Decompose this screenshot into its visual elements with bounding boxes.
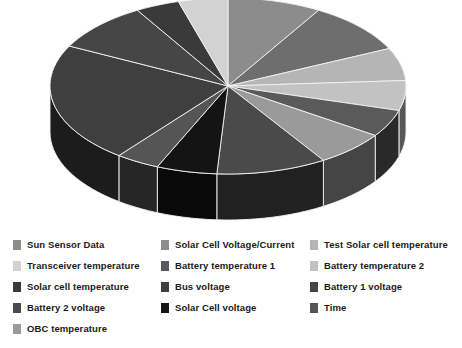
legend-column-1: Sun Sensor DataTransceiver temperatureSo… [13, 234, 153, 339]
legend-column-2: Solar Cell Voltage/CurrentBattery temper… [161, 234, 301, 318]
legend-item[interactable]: Battery temperature 2 [310, 255, 460, 276]
legend-item[interactable]: OBC temperature [13, 318, 153, 339]
legend-item[interactable]: Solar Cell Voltage/Current [161, 234, 301, 255]
legend-item-label: Solar Cell voltage [175, 302, 256, 313]
legend-item-label: Battery 1 voltage [324, 281, 402, 292]
chart-area: Sun Sensor DataSolar Cell Voltage/Curren… [0, 0, 462, 232]
legend-color-swatch [161, 240, 169, 250]
pie-top-surface: Sun Sensor DataSolar Cell Voltage/Curren… [50, 0, 406, 174]
legend-item-label: Solar Cell Voltage/Current [175, 239, 295, 250]
legend-item-label: Bus voltage [175, 281, 230, 292]
legend-item-label: Solar cell temperature [27, 281, 129, 292]
legend-color-swatch [161, 261, 169, 271]
legend-item-label: OBC temperature [27, 323, 107, 334]
legend-item-label: Test Solar cell temperature [324, 239, 448, 250]
legend-color-swatch [13, 282, 21, 292]
legend-item[interactable]: Solar Cell voltage [161, 297, 301, 318]
legend-item[interactable]: Time [310, 297, 460, 318]
legend-item[interactable]: Transceiver temperature [13, 255, 153, 276]
legend-item[interactable]: Sun Sensor Data [13, 234, 153, 255]
legend-item[interactable]: Battery 2 voltage [13, 297, 153, 318]
chart-legend: Sun Sensor DataTransceiver temperatureSo… [0, 234, 462, 348]
legend-item[interactable]: Battery 1 voltage [310, 276, 460, 297]
legend-item[interactable]: Battery temperature 1 [161, 255, 301, 276]
legend-item-label: Time [324, 302, 346, 313]
legend-column-3: Test Solar cell temperatureBattery tempe… [310, 234, 460, 318]
legend-color-swatch [13, 324, 21, 334]
legend-item[interactable]: Test Solar cell temperature [310, 234, 460, 255]
legend-color-swatch [310, 240, 318, 250]
legend-color-swatch [13, 303, 21, 313]
legend-item-label: Battery temperature 2 [324, 260, 424, 271]
legend-color-swatch [310, 282, 318, 292]
legend-color-swatch [310, 303, 318, 313]
legend-item-label: Sun Sensor Data [27, 239, 104, 250]
legend-item-label: Battery 2 voltage [27, 302, 105, 313]
pie-chart-3d: Sun Sensor DataSolar Cell Voltage/Curren… [0, 0, 462, 232]
legend-item[interactable]: Bus voltage [161, 276, 301, 297]
legend-item[interactable]: Solar cell temperature [13, 276, 153, 297]
legend-item-label: Transceiver temperature [27, 260, 140, 271]
legend-color-swatch [161, 282, 169, 292]
legend-color-swatch [161, 303, 169, 313]
legend-color-swatch [13, 240, 21, 250]
legend-color-swatch [13, 261, 21, 271]
legend-item-label: Battery temperature 1 [175, 260, 275, 271]
pie-chart-page: Sun Sensor DataSolar Cell Voltage/Curren… [0, 0, 462, 348]
pie-slice-side [157, 167, 217, 220]
legend-color-swatch [310, 261, 318, 271]
